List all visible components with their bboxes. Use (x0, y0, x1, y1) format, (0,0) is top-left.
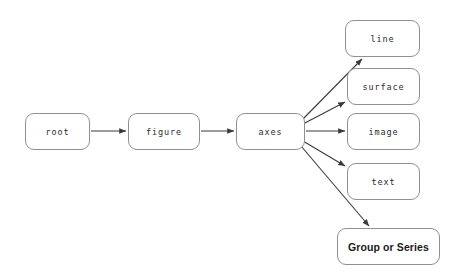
node-root[interactable]: root (25, 113, 90, 150)
node-image-label: image (368, 127, 398, 137)
node-axes-label: axes (258, 127, 282, 137)
node-image[interactable]: image (347, 113, 420, 150)
node-text[interactable]: text (347, 163, 420, 200)
node-group-or-series[interactable]: Group or Series (337, 228, 440, 265)
node-axes[interactable]: axes (236, 113, 305, 150)
node-surface-label: surface (362, 82, 404, 92)
node-figure[interactable]: figure (128, 113, 200, 150)
node-line[interactable]: line (345, 20, 420, 57)
node-text-label: text (371, 177, 395, 187)
node-group-or-series-label: Group or Series (348, 241, 429, 253)
edge-axes-text (303, 141, 345, 166)
node-line-label: line (370, 34, 394, 44)
diagram-canvas: root figure axes line surface image text… (0, 0, 450, 273)
node-root-label: root (45, 127, 69, 137)
node-figure-label: figure (146, 127, 182, 137)
node-surface[interactable]: surface (347, 68, 420, 105)
